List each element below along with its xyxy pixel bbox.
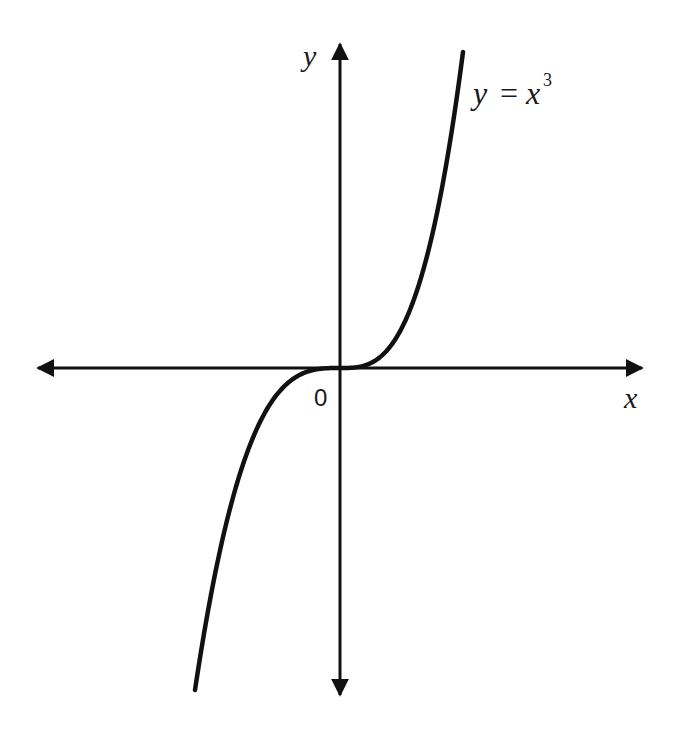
curve-equation-label: y = x 3 bbox=[470, 70, 552, 111]
equation-exponent: 3 bbox=[543, 70, 552, 90]
cubic-curve bbox=[195, 52, 463, 690]
y-axis-label: y bbox=[300, 39, 317, 72]
origin-label: 0 bbox=[314, 384, 327, 411]
equation-lhs: y bbox=[470, 75, 488, 111]
equation-base: x bbox=[525, 75, 540, 111]
x-axis-label: x bbox=[623, 381, 638, 414]
equation-equals: = bbox=[500, 75, 518, 111]
cubic-function-graph: y x 0 y = x 3 bbox=[0, 0, 679, 736]
